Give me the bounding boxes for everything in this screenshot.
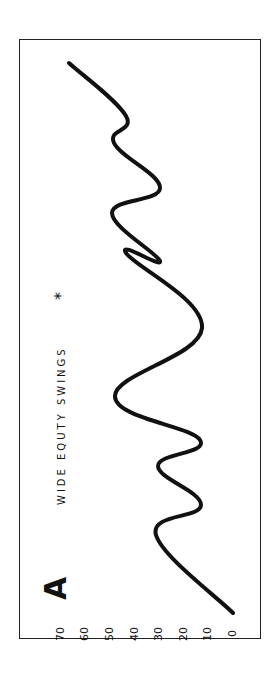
tick-label: 60 — [78, 627, 91, 641]
chart-title: WIDE EQUTY SWINGS — [56, 346, 67, 505]
tick-label: 10 — [201, 627, 214, 641]
tick-label: 0 — [226, 630, 239, 637]
tick-label: 20 — [177, 627, 190, 641]
tick-label: 40 — [128, 627, 141, 641]
tick-label: 50 — [103, 627, 116, 641]
equity-curve — [69, 63, 233, 613]
panel-label: A — [38, 577, 73, 600]
asterisk-marker: * — [51, 292, 70, 300]
tick-label: 70 — [54, 627, 67, 641]
tick-label: 30 — [152, 627, 165, 641]
